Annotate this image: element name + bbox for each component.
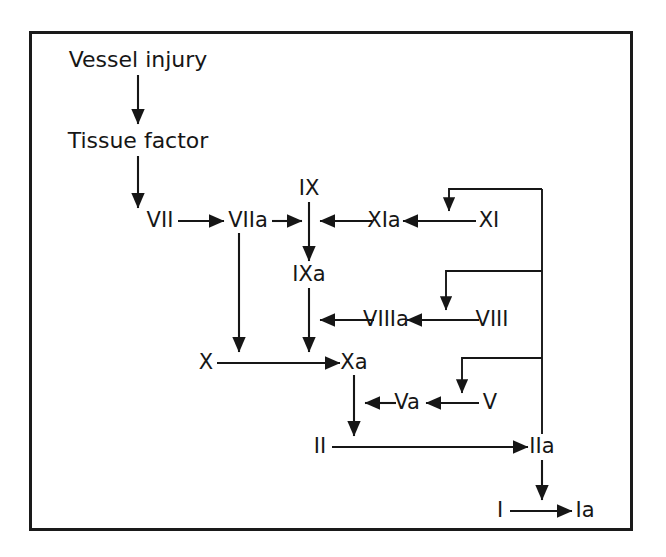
node-va: Va	[394, 390, 420, 414]
node-iia: IIa	[529, 434, 554, 458]
node-viia: VIIa	[228, 208, 268, 232]
feedback-iia-to-viii	[446, 271, 542, 310]
node-ii: II	[314, 434, 326, 458]
node-xi: XI	[479, 208, 500, 232]
node-x: X	[199, 350, 213, 374]
node-v: V	[483, 390, 498, 414]
node-ia: Ia	[575, 498, 594, 522]
coagulation-cascade-figure: Vessel injury Tissue factor VII VIIa IX …	[29, 31, 633, 531]
node-labels: Vessel injury Tissue factor VII VIIa IX …	[67, 47, 595, 522]
node-tissue-factor: Tissue factor	[67, 128, 210, 153]
cascade-diagram-svg: Vessel injury Tissue factor VII VIIa IX …	[32, 34, 636, 534]
node-viii: VIII	[476, 307, 509, 331]
node-vessel-injury: Vessel injury	[69, 47, 208, 72]
feedback-iia-to-v	[462, 358, 542, 393]
node-ix: IX	[299, 176, 320, 200]
node-vii: VII	[147, 208, 174, 232]
node-xia: XIa	[367, 208, 400, 232]
figure-page: Vessel injury Tissue factor VII VIIa IX …	[0, 0, 666, 557]
node-ixa: IXa	[292, 262, 325, 286]
node-i: I	[497, 498, 503, 522]
node-xa: Xa	[340, 350, 367, 374]
